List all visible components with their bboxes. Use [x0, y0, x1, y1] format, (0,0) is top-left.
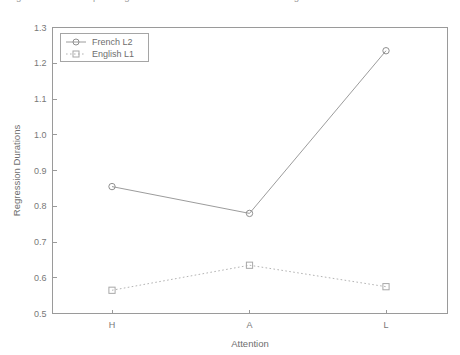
y-tick-label: 1.3 — [34, 23, 47, 33]
series-1 — [109, 48, 389, 217]
x-axis: HAL — [109, 310, 389, 330]
axis-frame — [53, 28, 448, 314]
y-tick-label: 0.7 — [34, 237, 47, 247]
legend-label: French L2 — [92, 37, 133, 47]
x-axis-title: Attention — [231, 338, 269, 349]
y-tick-label: 1.2 — [34, 58, 47, 68]
x-tick-label: L — [383, 320, 388, 330]
y-tick-label: 0.6 — [34, 273, 47, 283]
data-point-marker — [246, 262, 252, 268]
x-tick-label: A — [246, 320, 252, 330]
plot-svg: 0.50.60.70.80.91.01.11.21.3 HAL Regressi… — [0, 0, 460, 355]
x-tick-label: H — [109, 320, 116, 330]
data-series-group — [109, 48, 389, 294]
y-axis-title: Regression Durations — [11, 125, 22, 217]
y-axis: 0.50.60.70.80.91.01.11.21.3 — [34, 23, 57, 319]
data-point-marker — [383, 284, 389, 290]
series-2 — [109, 262, 389, 293]
y-tick-label: 0.8 — [34, 201, 47, 211]
series-line — [112, 51, 386, 214]
plot-frame — [53, 28, 448, 314]
y-tick-label: 1.0 — [34, 130, 47, 140]
chart-legend: French L2English L1 — [60, 33, 148, 61]
y-tick-label: 0.9 — [34, 166, 47, 176]
legend-label: English L1 — [92, 49, 134, 59]
y-tick-label: 0.5 — [34, 309, 47, 319]
line-chart-figure: 0.50.60.70.80.91.01.11.21.3 HAL Regressi… — [0, 0, 460, 355]
y-tick-label: 1.1 — [34, 94, 47, 104]
series-line — [112, 265, 386, 290]
